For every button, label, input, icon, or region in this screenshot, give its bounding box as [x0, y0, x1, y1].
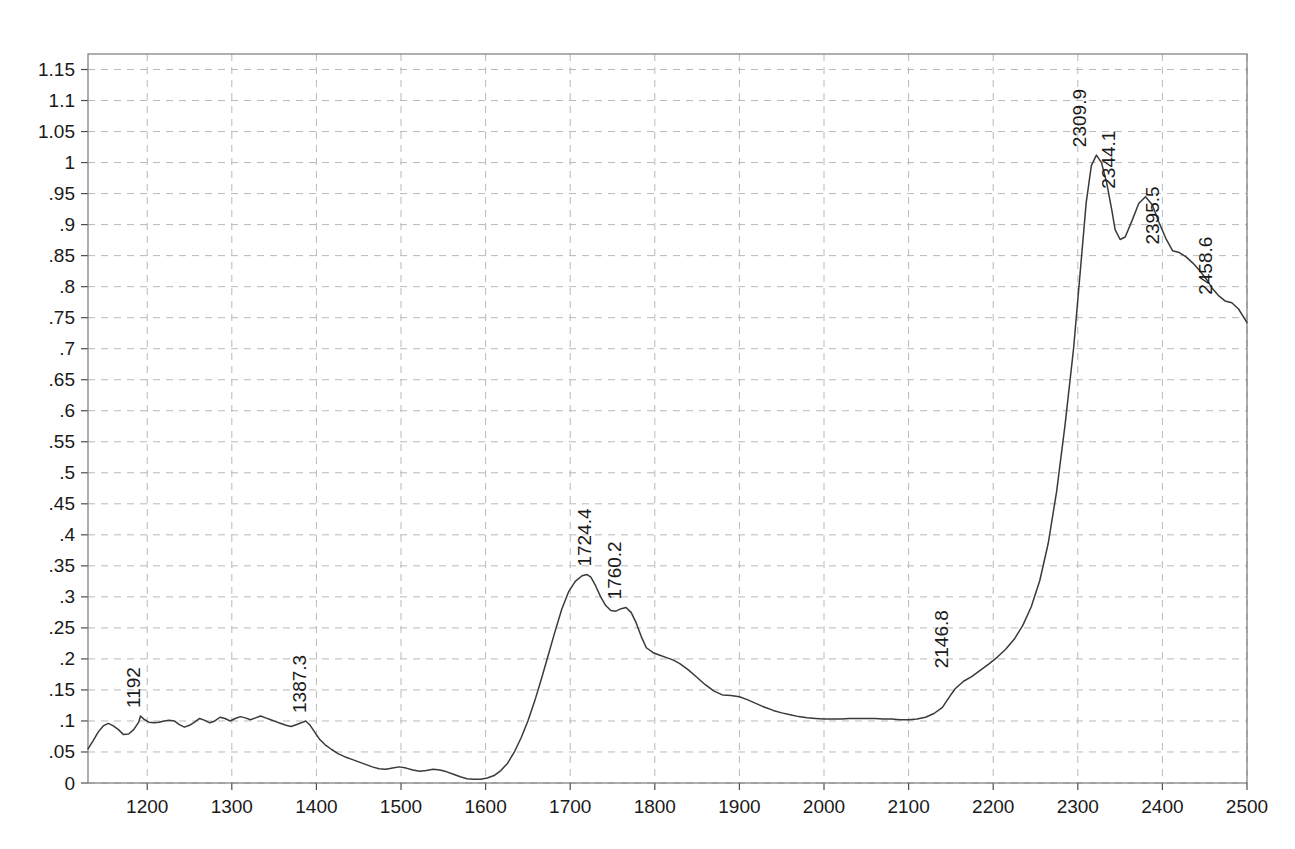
peak-label: 1192	[123, 667, 144, 708]
x-tick-label: 1900	[718, 796, 760, 817]
y-tick-label: .45	[49, 493, 75, 514]
y-tick-label: 1.1	[49, 90, 75, 111]
x-tick-label: 2400	[1141, 796, 1183, 817]
y-tick-label: .95	[49, 183, 75, 204]
x-tick-label: 1800	[634, 796, 676, 817]
peak-label: 2344.1	[1098, 131, 1119, 189]
peak-label: 2458.6	[1195, 237, 1216, 295]
y-tick-label: .2	[59, 648, 75, 669]
x-tick-label: 2000	[803, 796, 845, 817]
peak-label: 1387.3	[289, 655, 310, 713]
y-tick-label: 1.15	[38, 59, 75, 80]
x-tick-label: 1300	[211, 796, 253, 817]
y-tick-label: .8	[59, 276, 75, 297]
spectrum-chart: 0.05.1.15.2.25.3.35.4.45.5.55.6.65.7.75.…	[0, 0, 1295, 849]
peak-label: 2309.9	[1069, 89, 1090, 147]
spectrum-plot: 0.05.1.15.2.25.3.35.4.45.5.55.6.65.7.75.…	[0, 0, 1295, 849]
x-tick-label: 2200	[972, 796, 1014, 817]
y-tick-label: 1.05	[38, 121, 75, 142]
y-tick-label: .15	[49, 679, 75, 700]
peak-label: 2146.8	[931, 610, 952, 668]
y-tick-label: .6	[59, 400, 75, 421]
x-tick-label: 2100	[887, 796, 929, 817]
peak-label: 2395.5	[1142, 186, 1163, 244]
y-tick-label: 0	[64, 773, 75, 794]
peak-label: 1760.2	[604, 541, 625, 599]
y-tick-label: .1	[59, 710, 75, 731]
y-tick-label: .65	[49, 369, 75, 390]
y-tick-label: .7	[59, 338, 75, 359]
x-tick-label: 2500	[1226, 796, 1268, 817]
y-tick-label: .35	[49, 555, 75, 576]
y-tick-label: 1	[64, 152, 75, 173]
y-tick-label: .25	[49, 617, 75, 638]
x-tick-label: 1500	[380, 796, 422, 817]
x-tick-label: 1600	[464, 796, 506, 817]
y-tick-label: .05	[49, 741, 75, 762]
x-tick-label: 1200	[126, 796, 168, 817]
y-tick-label: .75	[49, 307, 75, 328]
x-tick-label: 1700	[549, 796, 591, 817]
y-tick-label: .3	[59, 586, 75, 607]
peak-label: 1724.4	[574, 508, 595, 567]
y-tick-label: .55	[49, 431, 75, 452]
y-tick-label: .5	[59, 462, 75, 483]
x-tick-label: 2300	[1057, 796, 1099, 817]
x-tick-label: 1400	[295, 796, 337, 817]
y-tick-label: .9	[59, 214, 75, 235]
y-tick-label: .4	[59, 524, 75, 545]
y-tick-label: .85	[49, 245, 75, 266]
